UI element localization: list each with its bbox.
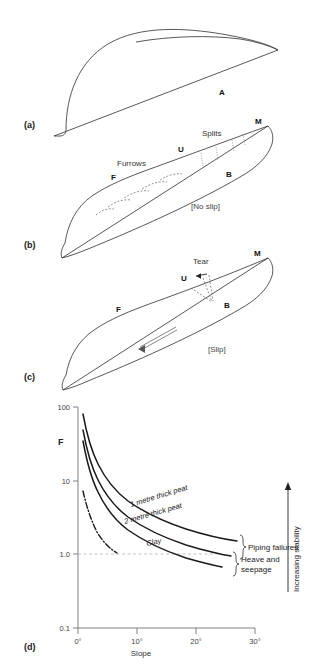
x-axis-label: Slope	[131, 649, 152, 658]
panel-c: (c) M U B F Tear [Slip]	[24, 249, 273, 390]
panel-c-point-m-label: M	[254, 249, 261, 258]
x-tick-label-30: 30°	[249, 637, 260, 646]
panel-d-chart: (d) 100 10 1.0 0.1 F 0° 10° 20° 30° Slop…	[24, 403, 301, 658]
furrow-mark	[96, 209, 114, 215]
furrow-mark	[124, 191, 149, 198]
tear-mark	[209, 275, 213, 301]
panel-b-furrows-label: Furrows	[117, 159, 146, 168]
y-tick-label-0-1: 0.1	[60, 624, 70, 633]
panel-c-label: (c)	[24, 372, 35, 382]
furrow-mark	[142, 182, 167, 189]
panel-c-base-line	[63, 258, 268, 390]
split-mark	[232, 140, 234, 152]
increasing-stability-arrowhead	[285, 482, 291, 490]
series-curve-clay	[83, 441, 222, 567]
panel-b-point-f-label: F	[111, 173, 116, 182]
y-tick-label-10: 10	[62, 477, 70, 486]
panel-a: (a) A	[24, 29, 278, 136]
panel-b-toe-curve	[61, 243, 65, 258]
panel-d-label: (d)	[24, 642, 36, 652]
panel-b-lower-outline	[62, 217, 162, 258]
tear-mark	[191, 288, 212, 302]
y-axis-label: F	[58, 437, 64, 447]
increasing-stability-annotation: Increasing stability	[285, 482, 301, 592]
panel-a-upper-outline	[66, 29, 278, 130]
panel-c-point-f-label: F	[116, 305, 121, 314]
heave-and-seepage-label-line1: Heave and	[241, 555, 280, 564]
x-tick-label-0: 0°	[74, 637, 81, 646]
slip-direction-line	[141, 330, 177, 350]
panel-c-upper-outline	[66, 258, 268, 375]
panel-c-tear-label: Tear	[193, 257, 209, 266]
panel-c-tear-leader	[196, 273, 207, 279]
y-axis-ticks	[73, 407, 78, 628]
panel-a-point-a-label: A	[219, 88, 225, 97]
x-axis-ticks	[78, 628, 255, 634]
series-curve-1-metre-thick-peat	[83, 414, 237, 541]
furrow-mark	[160, 174, 182, 180]
x-tick-label-10: 10°	[131, 637, 142, 646]
panel-b-upper-outline	[65, 126, 268, 243]
split-mark	[201, 153, 203, 166]
panel-c-state-label: [Slip]	[208, 345, 226, 354]
panel-b-base-line	[62, 126, 268, 258]
panel-c-lower-outline	[63, 349, 162, 390]
tear-leader-arrowhead	[196, 273, 201, 279]
x-tick-label-20: 20°	[190, 637, 201, 646]
panel-b-label: (b)	[24, 240, 36, 250]
increasing-stability-label: Increasing stability	[292, 526, 301, 592]
peat-slide-figure: (a) A (b)	[0, 0, 311, 668]
split-mark	[243, 134, 245, 145]
furrow-mark	[108, 200, 131, 207]
heave-and-seepage-label-line2: seepage	[241, 565, 272, 574]
panel-b-state-label: [No slip]	[191, 202, 220, 211]
panel-c-nose-outline	[162, 258, 273, 349]
panel-b-point-m-label: M	[255, 117, 262, 126]
panel-b-splits-group	[201, 134, 245, 166]
heave-and-seepage-annotation: Heave and seepage	[233, 552, 280, 576]
panel-b-point-u-label: U	[178, 145, 184, 154]
panel-b: (b) M U B F Splits Furro	[24, 117, 273, 258]
panel-a-base-line	[54, 50, 278, 136]
panel-b-splits-label: Splits	[202, 129, 222, 138]
panel-b-point-b-label: B	[226, 170, 232, 179]
panel-a-label: (a)	[24, 120, 35, 130]
curve-label-clay: Clay	[146, 536, 164, 548]
panel-c-slip-direction	[138, 327, 177, 353]
y-tick-label-100: 100	[57, 403, 70, 412]
panel-c-point-b-label: B	[224, 301, 230, 310]
piping-failures-label: Piping failures	[248, 543, 298, 552]
panel-c-point-u-label: U	[181, 274, 187, 283]
y-tick-label-1: 1.0	[60, 550, 70, 559]
panel-c-tear-group	[191, 275, 213, 302]
panel-c-toe-curve	[62, 375, 66, 390]
brace-heave-and-seepage	[233, 552, 239, 576]
series-curve-dash-dot	[83, 491, 117, 553]
panel-a-crest-outline	[136, 37, 278, 50]
